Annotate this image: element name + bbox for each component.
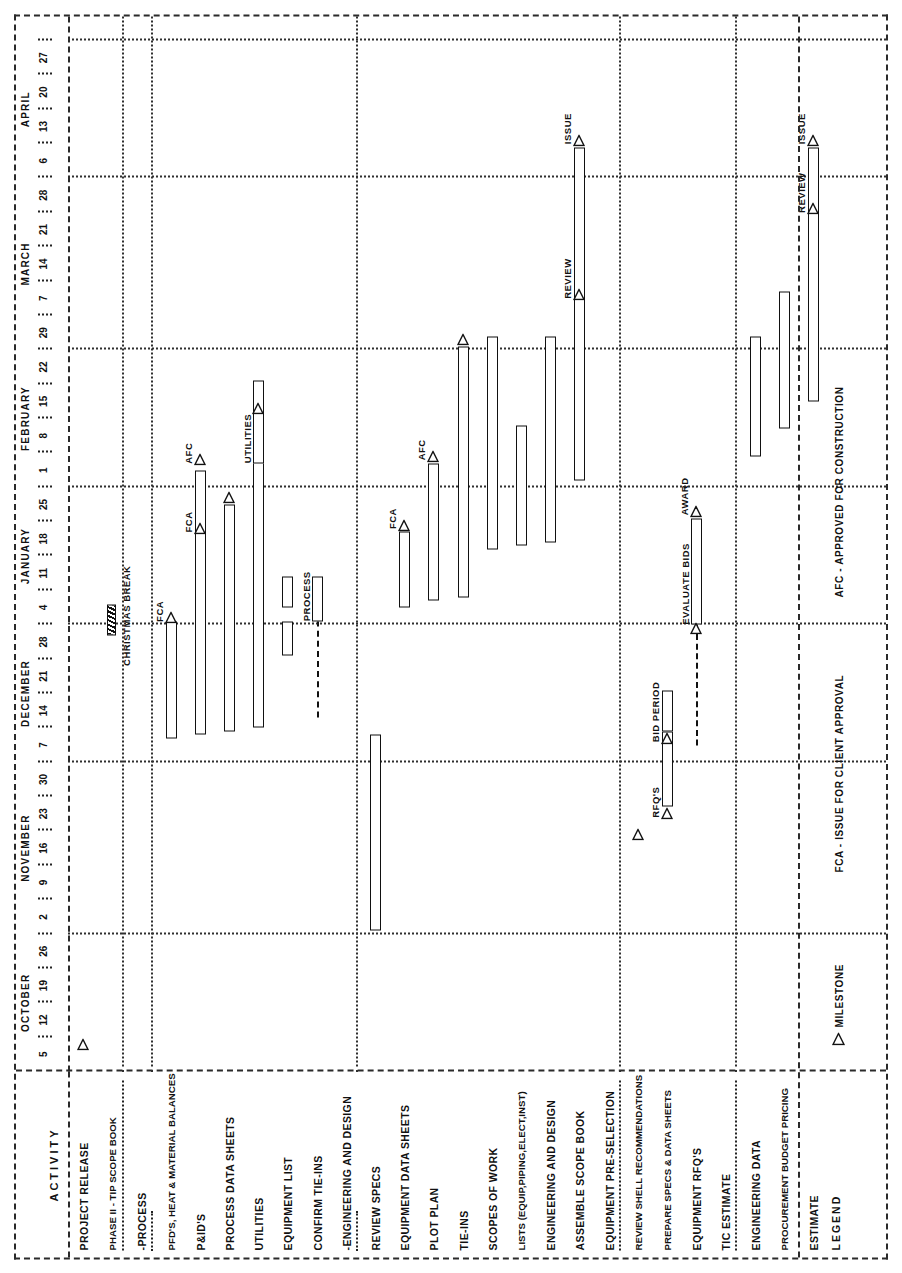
gantt-bar[interactable] [750, 336, 761, 456]
gantt-bar[interactable] [370, 734, 381, 930]
day-tick-label: 28 [38, 624, 49, 658]
milestone-icon[interactable] [661, 807, 673, 819]
gantt-bar[interactable] [545, 336, 556, 542]
milestone-icon[interactable] [77, 1038, 89, 1050]
gantt-bar[interactable] [691, 518, 702, 625]
milestone-icon[interactable] [252, 402, 264, 414]
milestone-label: AFC [416, 439, 427, 460]
day-tick-label: 9 [38, 865, 49, 899]
day-tick-label: 8 [38, 418, 49, 452]
gantt-bar[interactable] [399, 531, 410, 607]
activity-row-5: PROCESS DATA SHEETS [220, 1075, 240, 1250]
day-tick-label: 7 [38, 728, 49, 762]
christmas-break-label: CHRISTMAS BREAK [121, 565, 132, 665]
activity-row-6: UTILITIES [249, 1075, 269, 1250]
month-label-april: APRIL [20, 40, 31, 177]
activity-underline-18 [619, 1080, 621, 1250]
gantt-bar[interactable] [696, 624, 698, 744]
milestone-icon[interactable] [690, 505, 702, 517]
section-gridline [356, 16, 358, 1071]
gantt-bar[interactable] [253, 380, 264, 462]
milestone-icon[interactable] [223, 491, 235, 503]
month-label-february: FEBRUARY [20, 349, 31, 486]
bar-label: EVALUATE BIDS [680, 543, 691, 625]
milestone-label: AWARD [679, 477, 690, 515]
gantt-bar[interactable] [282, 576, 293, 607]
milestone-icon[interactable] [165, 611, 177, 623]
day-tick-label: 19 [38, 968, 49, 1002]
day-tick-label: 2 [38, 899, 49, 933]
day-tick-label: 1 [38, 453, 49, 487]
activity-row-13: TIE-INS [454, 1075, 474, 1250]
bar-label: UTILITIES [242, 413, 253, 462]
gantt-bar[interactable] [317, 611, 319, 718]
day-tick-label: 11 [38, 556, 49, 590]
activity-row-3: PFD'S, HEAT & MATERIAL BALANCES [162, 1075, 182, 1250]
gantt-bar[interactable] [516, 425, 527, 545]
activity-row-21: EQUIPMENT RFQ'S [687, 1075, 707, 1250]
month-gridline [68, 760, 886, 762]
gantt-bar[interactable] [458, 346, 469, 597]
milestone-label: BID PERIOD [650, 681, 661, 741]
gantt-bar[interactable] [166, 621, 177, 738]
month-label-november: NOVEMBER [20, 762, 31, 934]
milestone-icon[interactable] [398, 519, 410, 531]
month-label-march: MARCH [20, 177, 31, 349]
day-tick-label: 15 [38, 384, 49, 418]
gantt-bar[interactable] [662, 690, 673, 731]
christmas-break-hatch [107, 604, 116, 635]
bar-label: PROCESS [301, 571, 312, 621]
milestone-icon[interactable] [194, 453, 206, 465]
month-gridline [68, 175, 886, 177]
activity-row-15: LISTS (EQUIP,PIPING,ELECT,INST) [512, 1075, 532, 1250]
activity-row-24: PROCUREMENT BUDGET PRICING [775, 1075, 795, 1250]
day-tick-label: 27 [38, 40, 49, 74]
day-tick-label: 25 [38, 487, 49, 521]
gantt-bar[interactable] [779, 291, 790, 428]
day-tick-label: 13 [38, 109, 49, 143]
gantt-bar[interactable] [487, 336, 498, 549]
day-tick-label: 29 [38, 315, 49, 349]
milestone-icon[interactable] [661, 732, 673, 744]
gantt-bar[interactable] [428, 463, 439, 600]
activity-row-2: -PROCESS [132, 1075, 152, 1250]
day-tick-label: 6 [38, 143, 49, 177]
milestone-icon[interactable] [427, 450, 439, 462]
day-tick-label: 30 [38, 762, 49, 796]
milestone-icon[interactable] [194, 522, 206, 534]
section-gridline [735, 16, 737, 1071]
gantt-bar[interactable] [574, 147, 585, 480]
day-tick-label: 7 [38, 281, 49, 315]
day-tick-label: 28 [38, 178, 49, 212]
activity-row-10: REVIEW SPECS [366, 1075, 386, 1250]
activity-row-8: CONFIRM TIE-INS [308, 1075, 328, 1250]
day-tick-label: 23 [38, 796, 49, 830]
milestone-label: RFQ'S [650, 786, 661, 817]
milestone-label: FCA [154, 600, 165, 621]
day-tick-label: 14 [38, 246, 49, 280]
gantt-bar[interactable] [224, 504, 235, 731]
activity-row-20: PREPARE SPECS & DATA SHEETS [658, 1075, 678, 1250]
activity-row-0: PROJECT RELEASE [74, 1075, 94, 1250]
milestone-icon[interactable] [573, 134, 585, 146]
activity-row-19: REVIEW SHELL RECOMMENDATIONS [629, 1075, 649, 1250]
activity-list: PROJECT RELEASEPHASE II - TIP SCOPE BOOK… [68, 1071, 886, 1257]
month-label-december: DECEMBER [20, 624, 31, 761]
activity-underline-22 [735, 1080, 737, 1250]
gantt-bar[interactable] [195, 470, 206, 735]
activity-underline-1 [122, 1080, 124, 1250]
milestone-icon[interactable] [573, 288, 585, 300]
day-tick-label: 22 [38, 349, 49, 383]
day-tick-label: 26 [38, 934, 49, 968]
milestone-icon[interactable] [632, 828, 644, 840]
activity-row-18: EQUIPMENT PRE-SELECTION [600, 1075, 620, 1250]
month-label-october: OCTOBER [20, 934, 31, 1071]
day-tick-label: 4 [38, 590, 49, 624]
milestone-icon[interactable] [457, 333, 469, 345]
activity-underline-9 [356, 1210, 358, 1250]
milestone-icon[interactable] [690, 622, 702, 634]
gantt-bar[interactable] [312, 576, 323, 621]
gantt-bar[interactable] [282, 621, 293, 655]
section-gridline [619, 16, 621, 1071]
day-tick-label: 14 [38, 693, 49, 727]
